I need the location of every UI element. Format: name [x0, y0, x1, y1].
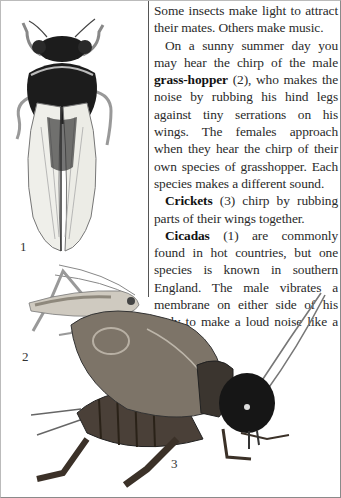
crickets-term: Crickets: [165, 193, 213, 208]
book-page: Some insects make light to attract their…: [0, 0, 341, 498]
intro-text: Some insects make light to attract their…: [154, 3, 338, 35]
cicada-illustration: [7, 7, 119, 257]
figure-label-3: 3: [171, 456, 178, 472]
grasshopper-term: grass-hopper: [154, 72, 228, 87]
column-divider: [148, 1, 149, 297]
figure-label-1: 1: [20, 239, 27, 255]
paragraph-intro: Some insects make light to attract their…: [154, 2, 338, 37]
grasshopper-text-a: On a sunny summer day you may hear the c…: [154, 38, 338, 70]
paragraph-grasshopper: On a sunny summer day you may hear the c…: [154, 37, 338, 193]
cicadas-term: Cicadas: [165, 228, 210, 243]
grasshopper-text-b: (2), who makes the noise by rubbing his …: [154, 72, 338, 191]
paragraph-crickets: Crickets (3) chirp by rubbing parts of t…: [154, 192, 338, 227]
cricket-illustration: [27, 289, 337, 489]
